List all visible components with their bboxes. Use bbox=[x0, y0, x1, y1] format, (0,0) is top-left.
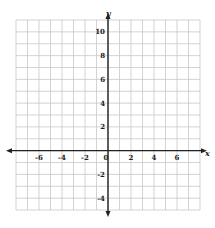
y-axis-label: y bbox=[105, 8, 112, 18]
x-tick-label: -6 bbox=[35, 153, 43, 162]
x-axis-arrow-left-icon bbox=[6, 148, 12, 153]
x-tick-label: -4 bbox=[58, 153, 66, 162]
y-tick-label: 8 bbox=[100, 51, 105, 60]
x-axis-label: x bbox=[204, 148, 210, 158]
y-tick-label: 10 bbox=[95, 27, 105, 36]
y-tick-label: 6 bbox=[100, 75, 105, 84]
y-tick-label: 4 bbox=[100, 99, 105, 108]
coordinate-plane: -6-4-20246-4-2246810 x y bbox=[0, 0, 215, 228]
x-tick-label: 2 bbox=[129, 153, 134, 162]
y-tick-label: -4 bbox=[97, 194, 105, 203]
x-tick-label: 0 bbox=[104, 153, 109, 162]
x-tick-label: 4 bbox=[152, 153, 157, 162]
y-tick-label: -2 bbox=[97, 170, 105, 179]
x-tick-label: -2 bbox=[81, 153, 89, 162]
y-axis-arrow-down-icon bbox=[106, 211, 111, 217]
x-tick-label: 6 bbox=[175, 153, 180, 162]
y-tick-label: 2 bbox=[100, 122, 105, 131]
